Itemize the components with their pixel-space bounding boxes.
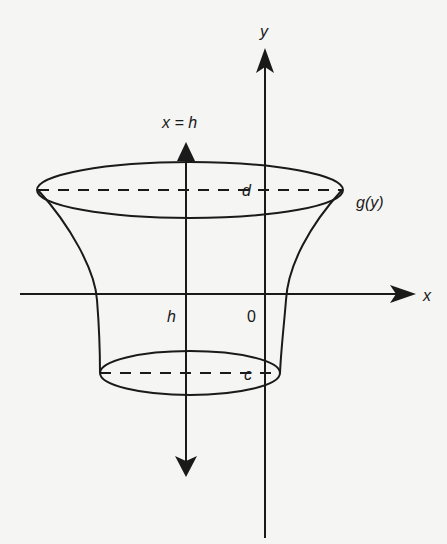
y-axis-label: y (259, 23, 269, 40)
top-ellipse (37, 162, 343, 218)
axis-of-rotation (175, 142, 197, 477)
diagram-svg: y x x = h d c g(y) h 0 (0, 0, 447, 544)
bottom-ellipse (100, 351, 280, 395)
curve-label: g(y) (356, 194, 384, 211)
x-axis (20, 285, 416, 303)
solid-of-revolution-diagram: y x x = h d c g(y) h 0 (0, 0, 447, 544)
right-curve-g-of-y (280, 190, 342, 373)
left-curve (38, 190, 100, 373)
lower-bound-label: c (244, 366, 252, 383)
axis-of-rotation-label: x = h (161, 114, 197, 131)
origin-label: 0 (247, 308, 256, 325)
x-axis-label: x (422, 287, 432, 304)
upper-bound-label: d (242, 182, 252, 199)
rotation-up-arrow-icon (177, 142, 195, 161)
h-marker-label: h (167, 308, 176, 325)
